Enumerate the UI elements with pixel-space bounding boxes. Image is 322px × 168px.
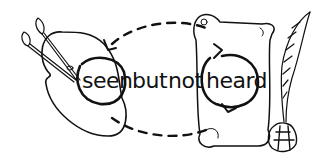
word-seen: seen [82, 70, 132, 92]
inkwell-icon [268, 123, 296, 152]
word-not: not [168, 70, 203, 92]
word-heard: heard [206, 70, 267, 92]
seen-but-not-heard-logo: seen but not heard [0, 0, 322, 168]
quill-icon [281, 12, 310, 122]
word-but: but [132, 70, 167, 92]
paintbrush-icon [22, 18, 80, 82]
